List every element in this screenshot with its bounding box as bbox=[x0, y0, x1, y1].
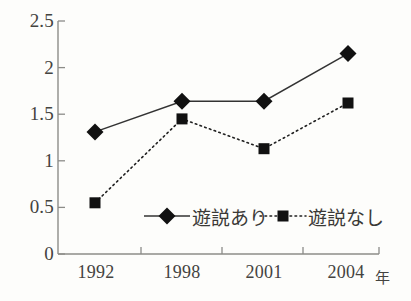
diamond-marker bbox=[256, 93, 273, 110]
series-yuzei-ari bbox=[87, 45, 357, 140]
legend-label-yuzei-ari: 遊説あり bbox=[192, 203, 268, 230]
series-yuzei-ari-line bbox=[95, 54, 348, 132]
y-tick-label-1: 1 bbox=[44, 149, 54, 171]
square-marker bbox=[90, 197, 101, 208]
x-axis-unit-label: 年 bbox=[375, 266, 390, 287]
chart-canvas bbox=[0, 0, 411, 301]
y-tick-label-1.5: 1.5 bbox=[30, 103, 54, 125]
square-marker bbox=[177, 113, 188, 124]
line-chart: 2.5 2 1.5 1 0.5 0 1992 1998 2001 2004 年 … bbox=[0, 0, 411, 301]
y-tick-label-2: 2 bbox=[44, 56, 54, 78]
square-marker bbox=[278, 211, 289, 222]
square-marker bbox=[343, 98, 354, 109]
x-tick-label-2004: 2004 bbox=[328, 262, 365, 283]
x-tick-label-1992: 1992 bbox=[78, 262, 115, 283]
x-axis-ticks bbox=[141, 247, 379, 254]
diamond-marker bbox=[87, 123, 104, 140]
x-tick-label-2001: 2001 bbox=[246, 262, 283, 283]
y-axis-ticks bbox=[58, 21, 65, 254]
series-yuzei-nashi bbox=[90, 98, 354, 209]
y-tick-label-0: 0 bbox=[44, 243, 54, 265]
diamond-marker bbox=[174, 93, 191, 110]
diamond-marker bbox=[159, 208, 176, 225]
y-tick-label-0.5: 0.5 bbox=[30, 196, 54, 218]
diamond-marker bbox=[340, 45, 357, 62]
square-marker bbox=[259, 143, 270, 154]
x-tick-label-1998: 1998 bbox=[164, 262, 201, 283]
legend-label-yuzei-nashi: 遊説なし bbox=[308, 203, 384, 230]
y-tick-label-2.5: 2.5 bbox=[30, 10, 54, 32]
